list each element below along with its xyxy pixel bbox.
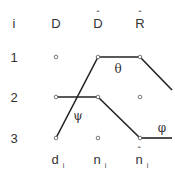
n-base: n bbox=[94, 152, 101, 167]
footer-label-n-hat-i: ni bbox=[136, 153, 149, 172]
phi-label: φ bbox=[158, 122, 166, 135]
n-subscript: i bbox=[105, 162, 107, 169]
edge-rhat1-out bbox=[140, 57, 172, 90]
footer-label-n-i: ni bbox=[94, 153, 107, 172]
footer-label-d-i: di bbox=[52, 153, 65, 172]
node-rhat2 bbox=[138, 95, 142, 99]
node-rhat3 bbox=[138, 136, 142, 140]
n-hat-base: n bbox=[136, 153, 143, 166]
psi-label: ψ bbox=[73, 110, 82, 123]
node-dhat3 bbox=[96, 136, 100, 140]
node-dhat2 bbox=[96, 95, 100, 99]
n-hat-subscript: i bbox=[147, 162, 149, 169]
edge-dhat2-rhat3 bbox=[98, 97, 140, 138]
node-d1 bbox=[54, 55, 58, 59]
node-rhat1 bbox=[138, 55, 142, 59]
node-d3 bbox=[54, 136, 58, 140]
d-base: d bbox=[52, 152, 59, 167]
d-subscript: i bbox=[63, 162, 65, 169]
alignment-graph bbox=[0, 0, 175, 180]
node-d2 bbox=[54, 95, 58, 99]
node-dhat1 bbox=[96, 55, 100, 59]
theta-label: θ bbox=[114, 63, 121, 76]
